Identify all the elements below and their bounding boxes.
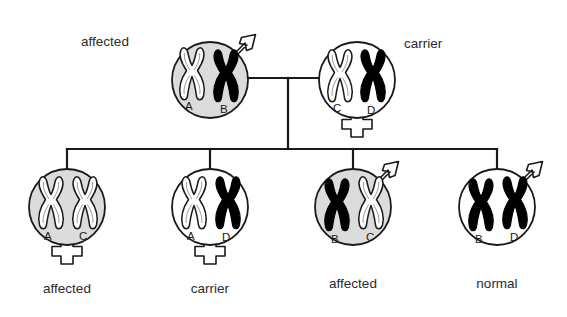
chromosome-label-child-1-1: C: [79, 230, 87, 242]
status-label-child-1: affected: [43, 281, 91, 296]
chromosome-label-child-2-0: A: [187, 230, 195, 242]
chromosome-label-father-1: B: [220, 103, 228, 115]
chromosome-label-mother-0: C: [333, 102, 341, 114]
pedigree-diagram: A B affected C D carrier: [0, 0, 567, 317]
chromosome-label-mother-1: D: [367, 104, 375, 116]
person-mother[interactable]: C D carrier: [319, 36, 443, 137]
person-child-2[interactable]: A D carrier: [172, 169, 248, 296]
status-label-child-2: carrier: [191, 281, 230, 296]
pedigree-connector-lines: [67, 78, 497, 170]
chromosome-label-father-0: A: [185, 100, 193, 112]
chromosome-label-child-3-0: B: [331, 233, 339, 245]
pedigree-canvas: A B affected C D carrier: [0, 0, 567, 317]
chromosome-label-child-4-1: D: [510, 231, 518, 243]
chromosome-label-child-4-0: B: [475, 233, 483, 245]
person-child-1[interactable]: A C affected: [29, 169, 105, 296]
chromosome-label-child-2-1: D: [222, 231, 230, 243]
person-child-3[interactable]: B C affected: [315, 162, 399, 292]
person-father[interactable]: A B affected: [81, 34, 255, 118]
status-label-father: affected: [81, 34, 129, 49]
person-child-4[interactable]: B D normal: [459, 162, 543, 292]
chromosome-label-child-3-1: C: [366, 231, 374, 243]
chromosome-label-child-1-0: A: [44, 230, 52, 242]
status-label-child-4: normal: [476, 276, 517, 291]
status-label-mother: carrier: [404, 36, 443, 51]
status-label-child-3: affected: [329, 276, 377, 291]
